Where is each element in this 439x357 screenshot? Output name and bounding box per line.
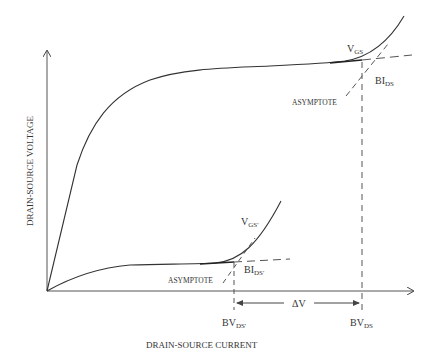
bvds-prime-label: BVDS' bbox=[222, 317, 246, 330]
vgs-prime-label: VGS' bbox=[241, 216, 258, 229]
bvds-label: BVDS bbox=[350, 317, 373, 330]
upper-horizontal-asymptote-dashed bbox=[362, 55, 412, 60]
y-axis-title: DRAIN-SOURCE VOLTAGE bbox=[25, 115, 35, 226]
upper-curve-vgs bbox=[47, 16, 404, 291]
vgs-label: VGS bbox=[347, 43, 363, 56]
x-axis-title: DRAIN-SOURCE CURRENT bbox=[146, 340, 258, 350]
lower-asymptote-label: ASYMPTOTE bbox=[168, 276, 213, 285]
bids-label: BIDS bbox=[375, 75, 394, 88]
diagram-canvas: ΔV VGS BIDS ASYMPTOTE VGS' BIDS' ASYMPTO… bbox=[0, 0, 439, 357]
upper-asymptote-label: ASYMPTOTE bbox=[292, 98, 337, 107]
bids-prime-label: BIDS' bbox=[244, 264, 264, 277]
lower-curve-vgs-prime bbox=[47, 201, 281, 291]
delta-v-label: ΔV bbox=[292, 298, 306, 309]
lower-horizontal-asymptote-dashed bbox=[234, 259, 290, 262]
